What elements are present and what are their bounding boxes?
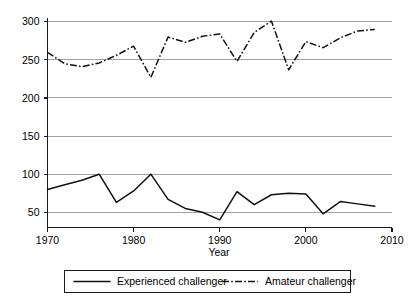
y-tick-label-100: 100: [22, 168, 40, 180]
y-tick-label-200: 200: [22, 92, 40, 104]
line-chart: 50100150200250300 19701980199020002010 Y…: [0, 0, 415, 305]
x-tick-label-1980: 1980: [122, 234, 146, 246]
y-tick-label-50: 50: [28, 206, 40, 218]
x-tick-label-2010: 2010: [380, 234, 404, 246]
x-axis-title: Year: [208, 246, 230, 258]
legend-label-amateur-challenger: Amateur challenger: [265, 275, 357, 287]
y-tick-label-250: 250: [22, 54, 40, 66]
x-tick-label-1970: 1970: [36, 234, 60, 246]
y-tick-label-150: 150: [22, 130, 40, 142]
chart-background: [0, 0, 415, 305]
x-tick-label-1990: 1990: [208, 234, 232, 246]
y-tick-label-300: 300: [22, 15, 40, 27]
chart-legend: Experienced challenger Amateur challenge…: [65, 271, 357, 293]
x-tick-label-2000: 2000: [294, 234, 318, 246]
legend-label-experienced-challenger: Experienced challenger: [117, 275, 227, 287]
chart-container: 50100150200250300 19701980199020002010 Y…: [0, 0, 415, 305]
